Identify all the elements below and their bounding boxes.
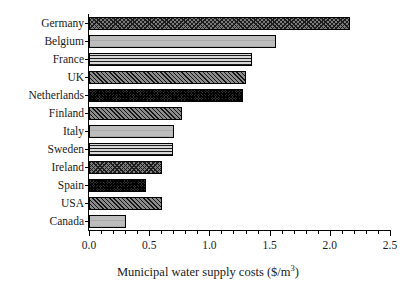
y-tick-label-france: France bbox=[0, 53, 84, 66]
y-tick-label-netherlands: Netherlands bbox=[0, 89, 84, 102]
bar-sweden bbox=[89, 143, 173, 156]
y-tick-label-canada: Canada bbox=[0, 215, 84, 228]
plot-area bbox=[89, 14, 390, 230]
y-tick-label-germany: Germany bbox=[0, 17, 84, 30]
x-tick-minor bbox=[354, 231, 355, 234]
y-tick-label-italy: Italy bbox=[0, 125, 84, 138]
bar-canada bbox=[89, 215, 126, 228]
bar-finland bbox=[89, 107, 182, 120]
x-tick-minor bbox=[366, 231, 367, 234]
x-tick-minor bbox=[233, 231, 234, 234]
x-tick-minor bbox=[161, 231, 162, 234]
x-axis-title-suffix: ) bbox=[295, 265, 299, 279]
y-axis-tick-labels: GermanyBelgiumFranceUKNetherlandsFinland… bbox=[0, 14, 84, 230]
x-tick-label-2.0: 2.0 bbox=[310, 238, 350, 252]
x-tick-minor bbox=[221, 231, 222, 234]
bar-uk bbox=[89, 71, 246, 84]
x-tick-minor bbox=[246, 231, 247, 234]
bar-chart-figure: GermanyBelgiumFranceUKNetherlandsFinland… bbox=[0, 0, 416, 297]
x-tick-minor bbox=[137, 231, 138, 234]
x-axis-title-text: Municipal water supply costs ($/m bbox=[117, 265, 291, 279]
y-tick-label-uk: UK bbox=[0, 71, 84, 84]
x-axis-line bbox=[88, 230, 391, 231]
x-tick-minor bbox=[282, 231, 283, 234]
x-tick-label-1.0: 1.0 bbox=[189, 238, 229, 252]
x-tick-major bbox=[270, 231, 271, 236]
x-tick-minor bbox=[258, 231, 259, 234]
x-tick-minor bbox=[378, 231, 379, 234]
x-tick-major bbox=[149, 231, 150, 236]
x-tick-minor bbox=[318, 231, 319, 234]
y-tick-label-finland: Finland bbox=[0, 107, 84, 120]
x-tick-major bbox=[390, 231, 391, 236]
x-tick-minor bbox=[101, 231, 102, 234]
y-tick-label-ireland: Ireland bbox=[0, 161, 84, 174]
bar-usa bbox=[89, 197, 162, 210]
bar-italy bbox=[89, 125, 174, 138]
x-tick-label-0.0: 0.0 bbox=[69, 238, 109, 252]
x-tick-label-0.5: 0.5 bbox=[129, 238, 169, 252]
x-tick-minor bbox=[173, 231, 174, 234]
bar-germany bbox=[89, 17, 350, 30]
bar-ireland bbox=[89, 161, 162, 174]
y-tick-label-usa: USA bbox=[0, 197, 84, 210]
x-tick-minor bbox=[294, 231, 295, 234]
y-tick-label-sweden: Sweden bbox=[0, 143, 84, 156]
x-tick-major bbox=[89, 231, 90, 236]
x-tick-label-2.5: 2.5 bbox=[370, 238, 410, 252]
x-axis-title: Municipal water supply costs ($/m3) bbox=[0, 265, 416, 280]
x-tick-minor bbox=[113, 231, 114, 234]
bar-france bbox=[89, 53, 252, 66]
x-tick-major bbox=[209, 231, 210, 236]
x-tick-minor bbox=[306, 231, 307, 234]
x-tick-minor bbox=[185, 231, 186, 234]
x-tick-minor bbox=[197, 231, 198, 234]
bar-belgium bbox=[89, 35, 276, 48]
x-tick-major bbox=[330, 231, 331, 236]
x-tick-minor bbox=[342, 231, 343, 234]
x-tick-minor bbox=[125, 231, 126, 234]
x-tick-label-1.5: 1.5 bbox=[250, 238, 290, 252]
y-tick-label-spain: Spain bbox=[0, 179, 84, 192]
bar-netherlands bbox=[89, 89, 243, 102]
y-tick-label-belgium: Belgium bbox=[0, 35, 84, 48]
bar-spain bbox=[89, 179, 146, 192]
